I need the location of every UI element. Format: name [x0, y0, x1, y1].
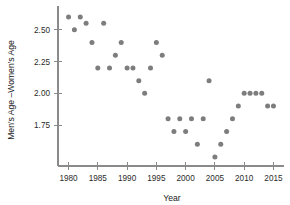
x-tick-label: 1985: [89, 174, 108, 183]
x-tick-label: 1995: [147, 174, 166, 183]
data-point: [271, 104, 276, 109]
data-point: [201, 116, 206, 121]
data-point: [171, 129, 176, 134]
data-point: [212, 155, 217, 160]
x-tick-label: 1990: [118, 174, 137, 183]
x-tick-group: 19801985199019952000200520102015: [59, 162, 283, 183]
data-point: [101, 21, 106, 26]
data-point: [107, 65, 112, 70]
data-point: [166, 116, 171, 121]
data-point: [207, 78, 212, 83]
scatter-chart: 1.752.002.252.50 19801985199019952000200…: [0, 0, 290, 205]
data-point: [66, 14, 71, 19]
x-tick-label: 2005: [206, 174, 225, 183]
data-point-group: [66, 14, 276, 159]
data-point: [72, 27, 77, 32]
x-tick-label: 1980: [59, 174, 78, 183]
x-tick-label: 2000: [177, 174, 196, 183]
y-axis-title: Men's Age –Women's Age: [6, 40, 16, 140]
x-tick-label: 2010: [235, 174, 254, 183]
data-point: [189, 116, 194, 121]
y-axis: 1.752.002.252.50: [34, 6, 62, 166]
data-point: [224, 129, 229, 134]
data-point: [230, 116, 235, 121]
data-point: [265, 104, 270, 109]
y-tick-label: 1.75: [34, 121, 50, 130]
data-point: [183, 129, 188, 134]
data-point: [119, 40, 124, 45]
y-tick-label: 2.50: [34, 26, 50, 35]
data-point: [125, 65, 130, 70]
data-point: [136, 78, 141, 83]
data-point: [95, 65, 100, 70]
data-point: [148, 65, 153, 70]
data-point: [218, 142, 223, 147]
data-point: [242, 91, 247, 96]
data-point: [259, 91, 264, 96]
data-point: [248, 91, 253, 96]
plot-area: 1.752.002.252.50 19801985199019952000200…: [0, 0, 290, 205]
data-point: [142, 91, 147, 96]
y-tick-label: 2.00: [34, 89, 50, 98]
data-point: [236, 104, 241, 109]
data-point: [195, 142, 200, 147]
x-tick-label: 2015: [264, 174, 283, 183]
x-axis-title: Year: [163, 193, 181, 203]
data-point: [89, 40, 94, 45]
data-point: [113, 53, 118, 58]
data-point: [160, 53, 165, 58]
data-point: [84, 21, 89, 26]
data-point: [253, 91, 258, 96]
data-point: [154, 40, 159, 45]
data-point: [78, 14, 83, 19]
data-point: [177, 116, 182, 121]
data-point: [130, 65, 135, 70]
x-axis: 19801985199019952000200520102015: [58, 162, 284, 183]
y-tick-label: 2.25: [34, 58, 50, 67]
